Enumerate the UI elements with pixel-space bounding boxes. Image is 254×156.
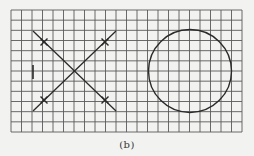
cross-marker-icon	[102, 39, 109, 46]
figure-caption: (b)	[0, 139, 254, 150]
grid-lines	[11, 10, 242, 132]
grid-figure: (b)	[0, 0, 254, 156]
diagram-canvas	[0, 0, 254, 156]
cross-marker-icon	[41, 97, 48, 104]
cross-marker-icon	[102, 97, 109, 104]
cross-marker-icon	[41, 39, 48, 46]
